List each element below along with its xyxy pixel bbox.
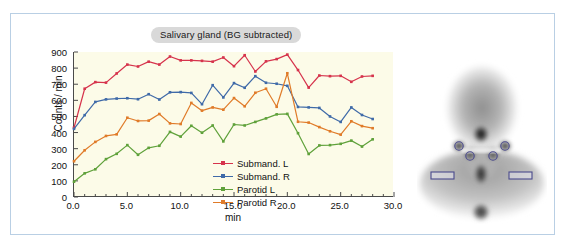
data-point: [83, 114, 86, 117]
data-point: [179, 123, 182, 126]
legend-label: Submand. L: [237, 158, 288, 169]
data-point: [339, 75, 342, 78]
legend-item-submand-l[interactable]: Submand. L: [213, 157, 290, 169]
data-point: [83, 172, 86, 175]
data-point: [158, 144, 161, 147]
data-point: [275, 105, 278, 108]
data-point: [179, 59, 182, 62]
data-point: [115, 72, 118, 75]
scintigram-image: [417, 36, 547, 224]
data-point: [233, 65, 236, 68]
data-point: [371, 118, 374, 121]
y-tick-label: 900: [51, 47, 67, 58]
data-point: [169, 131, 172, 134]
data-point: [169, 55, 172, 58]
legend-swatch-icon: [213, 158, 233, 168]
data-point: [233, 82, 236, 85]
data-point: [350, 120, 353, 123]
legend-swatch-icon: [213, 184, 233, 194]
data-point: [286, 85, 289, 88]
x-tick-label: 10.0: [170, 200, 189, 211]
y-tick-label: 300: [51, 143, 67, 154]
data-point: [361, 125, 364, 128]
chart-title: Salivary gland (BG subtracted): [151, 27, 301, 43]
data-point: [329, 115, 332, 118]
data-point: [201, 109, 204, 112]
data-point: [115, 153, 118, 156]
data-point: [158, 63, 161, 66]
data-point: [201, 103, 204, 106]
legend-label: Submand. R: [237, 171, 290, 182]
y-tick-label: 600: [51, 95, 67, 106]
y-tick-label: 100: [51, 175, 67, 186]
data-point: [254, 70, 257, 73]
data-point: [265, 117, 268, 120]
data-point: [126, 63, 129, 66]
data-point: [307, 106, 310, 109]
legend-item-submand-r[interactable]: Submand. R: [213, 170, 290, 182]
x-axis-title: min: [73, 212, 393, 223]
data-point: [211, 84, 214, 87]
legend-item-parotid-l[interactable]: Parotid L: [213, 183, 290, 195]
data-point: [73, 128, 76, 131]
x-tick-label: 30.0: [384, 200, 403, 211]
data-point: [137, 98, 140, 101]
background-roi-left: [509, 172, 532, 179]
data-point: [297, 132, 300, 135]
data-point: [147, 119, 150, 122]
data-point: [243, 86, 246, 89]
data-point: [94, 168, 97, 171]
data-point: [318, 144, 321, 147]
data-point: [243, 124, 246, 127]
data-point: [318, 126, 321, 129]
data-point: [169, 91, 172, 94]
data-point: [201, 60, 204, 63]
data-point: [105, 81, 108, 84]
y-tick-label: 400: [51, 127, 67, 138]
data-point: [73, 160, 76, 163]
data-point: [211, 124, 214, 127]
data-point: [211, 60, 214, 63]
data-point: [361, 114, 364, 117]
data-point: [339, 143, 342, 146]
data-point: [137, 153, 140, 156]
data-point: [254, 121, 257, 124]
data-point: [233, 123, 236, 126]
data-point: [222, 56, 225, 59]
y-tick-label: 200: [51, 159, 67, 170]
scintigram-panel: [417, 36, 547, 224]
data-point: [126, 97, 129, 100]
data-point: [211, 106, 214, 109]
data-point: [339, 121, 342, 124]
data-point: [265, 87, 268, 90]
data-point: [190, 102, 193, 105]
data-point: [190, 92, 193, 95]
data-point: [147, 147, 150, 150]
data-point: [179, 135, 182, 138]
x-tick-label: 5.0: [120, 200, 133, 211]
data-point: [329, 144, 332, 147]
data-point: [126, 116, 129, 119]
data-point: [361, 145, 364, 148]
data-point: [329, 130, 332, 133]
data-point: [318, 107, 321, 110]
data-point: [318, 74, 321, 77]
legend-swatch-icon: [213, 197, 233, 207]
data-point: [265, 81, 268, 84]
data-point: [307, 121, 310, 124]
data-point: [339, 133, 342, 136]
data-point: [105, 98, 108, 101]
data-point: [329, 75, 332, 78]
data-point: [73, 180, 76, 183]
data-point: [297, 106, 300, 109]
data-point: [361, 75, 364, 78]
data-point: [371, 75, 374, 78]
data-point: [350, 81, 353, 84]
figure-frame: Salivary gland (BG subtracted) Counts / …: [10, 13, 555, 235]
legend-item-parotid-r[interactable]: Parotid R: [213, 196, 290, 208]
data-point: [350, 139, 353, 142]
data-point: [94, 141, 97, 144]
background-roi-right: [431, 172, 454, 179]
y-axis-tick-labels: 0100200300400500600700800900: [29, 44, 71, 204]
data-point: [307, 153, 310, 156]
